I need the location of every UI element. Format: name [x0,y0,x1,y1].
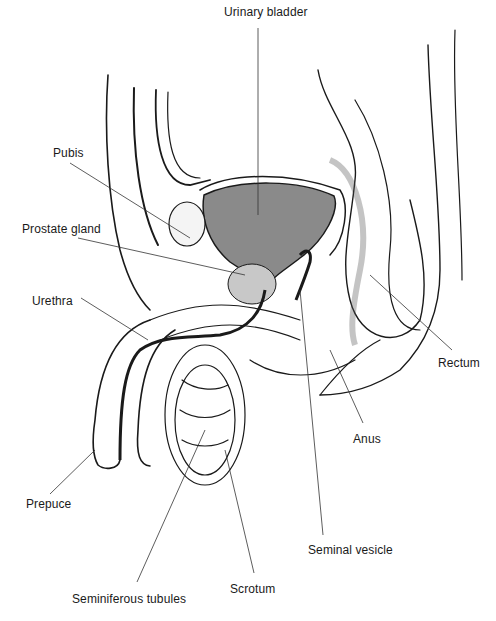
label-seminal-vesicle: Seminal vesicle [308,543,393,557]
label-prostate-gland: Prostate gland [22,222,101,236]
anatomy-drawing [0,0,496,621]
label-pubis: Pubis [53,146,84,160]
label-prepuce: Prepuce [26,497,71,511]
anatomy-diagram: Urinary bladder Pubis Prostate gland Ure… [0,0,496,621]
label-rectum: Rectum [438,356,480,370]
label-anus: Anus [353,432,381,446]
label-scrotum: Scrotum [230,582,275,596]
label-seminiferous-tubules: Seminiferous tubules [72,592,186,606]
label-urinary-bladder: Urinary bladder [224,5,308,19]
label-urethra: Urethra [32,294,73,308]
